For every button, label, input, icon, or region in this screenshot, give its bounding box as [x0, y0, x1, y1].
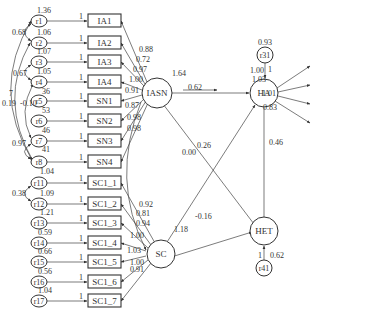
- svg-text:0.38: 0.38: [12, 189, 26, 198]
- svg-text:IA4: IA4: [98, 77, 112, 87]
- svg-text:1: 1: [79, 12, 83, 21]
- svg-text:46: 46: [42, 126, 50, 135]
- indicator-SC1_6: SC1_6: [88, 275, 121, 288]
- svg-text:0.19: 0.19: [2, 99, 16, 108]
- latent-het: HET: [250, 217, 278, 245]
- svg-text:1.00: 1.00: [250, 66, 264, 75]
- latent-sc: SC: [147, 240, 175, 268]
- svg-text:0.92: 0.92: [139, 200, 153, 209]
- svg-text:IA3: IA3: [98, 57, 112, 67]
- error-node-r11: r11: [31, 177, 47, 189]
- svg-text:SN2: SN2: [96, 116, 112, 126]
- svg-text:1: 1: [79, 92, 83, 101]
- left-error-nodes: r1 r2 r3 r4 r5 r6 r7 r8 r11 r12 r13 r14 …: [31, 15, 47, 307]
- svg-text:1.00: 1.00: [129, 75, 143, 84]
- svg-text:1: 1: [79, 34, 83, 43]
- svg-text:0.67: 0.67: [13, 69, 27, 78]
- svg-text:41: 41: [42, 145, 50, 154]
- svg-text:1: 1: [79, 53, 83, 62]
- svg-text:IASN: IASN: [146, 88, 168, 98]
- svg-text:IA2: IA2: [98, 38, 112, 48]
- svg-text:1: 1: [79, 153, 83, 162]
- svg-text:SC1_3: SC1_3: [92, 218, 117, 228]
- left-covariances: [11, 21, 33, 201]
- left-loading-labels: 0.88 0.72 0.97 1.00 0.91 0.87 0.98 0.98 …: [125, 45, 153, 274]
- indicator-SN1: SN1: [88, 94, 121, 107]
- svg-text:r3: r3: [36, 58, 43, 67]
- svg-text:SN1: SN1: [96, 96, 112, 106]
- svg-text:IA1: IA1: [98, 16, 112, 26]
- svg-text:r1: r1: [36, 17, 43, 26]
- svg-text:r8: r8: [36, 158, 43, 167]
- svg-text:0.26: 0.26: [197, 141, 211, 150]
- svg-text:1.04: 1.04: [38, 286, 52, 295]
- indicator-SC1_2: SC1_2: [88, 197, 121, 210]
- svg-text:HET: HET: [255, 226, 273, 236]
- svg-text:r13: r13: [34, 219, 45, 228]
- path-iasn-het: [163, 104, 257, 228]
- svg-text:1: 1: [79, 292, 83, 301]
- path-sc-het: [168, 232, 252, 258]
- svg-text:SC1_5: SC1_5: [92, 257, 117, 267]
- svg-text:SC1_6: SC1_6: [92, 277, 117, 287]
- svg-text:1: 1: [79, 132, 83, 141]
- indicator-SC1_5: SC1_5: [88, 255, 121, 268]
- indicator-SN2: SN2: [88, 114, 121, 127]
- left-covariance-labels: 0.68 0.67 -0.10 7 0.19 0.97 0.38: [2, 28, 37, 198]
- svg-text:0.88: 0.88: [139, 45, 153, 54]
- svg-text:1.01: 1.01: [262, 89, 276, 98]
- iasn-variance: 1.64: [172, 69, 186, 78]
- svg-text:1.36: 1.36: [37, 6, 51, 15]
- disturbance-r41: r41 0.62 1: [256, 246, 284, 276]
- svg-text:1.04: 1.04: [40, 167, 54, 176]
- svg-text:0.68: 0.68: [12, 28, 26, 37]
- indicator-SN4: SN4: [88, 155, 121, 168]
- svg-text:r4: r4: [36, 78, 43, 87]
- svg-text:r17: r17: [34, 297, 45, 306]
- svg-text:SC1_2: SC1_2: [92, 199, 117, 209]
- svg-text:0.87: 0.87: [125, 101, 139, 110]
- svg-text:1: 1: [268, 65, 272, 74]
- svg-text:0.66: 0.66: [38, 247, 52, 256]
- svg-text:1.03: 1.03: [127, 246, 141, 255]
- svg-text:1.06: 1.06: [37, 28, 51, 37]
- error-node-r1: r1: [31, 15, 47, 27]
- svg-text:1.09: 1.09: [40, 189, 54, 198]
- left-indicator-boxes: IA1 IA2 IA3 IA4 SN1 SN2 SN3 SN4 SC1_1 SC…: [88, 14, 121, 307]
- svg-text:1.07: 1.07: [37, 47, 51, 56]
- svg-text:1.21: 1.21: [40, 208, 54, 217]
- svg-text:SC1_1: SC1_1: [92, 178, 117, 188]
- svg-text:7: 7: [9, 89, 13, 98]
- indicator-IA3: IA3: [88, 55, 121, 68]
- svg-text:0.00: 0.00: [182, 148, 196, 157]
- svg-text:0.91: 0.91: [130, 265, 144, 274]
- indicator-SC1_3: SC1_3: [88, 216, 121, 229]
- svg-text:0.97: 0.97: [12, 139, 26, 148]
- svg-text:0.62: 0.62: [270, 251, 284, 260]
- svg-text:0.56: 0.56: [38, 267, 52, 276]
- sem-diagram: r1 r2 r3 r4 r5 r6 r7 r8 r11 r12 r13 r14 …: [0, 0, 391, 310]
- indicator-IA4: IA4: [88, 75, 121, 88]
- svg-text:0.83: 0.83: [263, 103, 277, 112]
- svg-text:r11: r11: [34, 179, 44, 188]
- svg-text:0.98: 0.98: [127, 124, 141, 133]
- svg-text:1.00: 1.00: [130, 231, 144, 240]
- svg-text:36: 36: [42, 87, 50, 96]
- svg-text:0.81: 0.81: [136, 209, 150, 218]
- svg-text:0.93: 0.93: [258, 38, 272, 47]
- indicator-SC1_7: SC1_7: [88, 294, 121, 307]
- svg-text:SC1_4: SC1_4: [92, 238, 117, 248]
- svg-text:SC1_7: SC1_7: [92, 296, 117, 306]
- svg-text:SC: SC: [155, 249, 166, 259]
- svg-text:1.18: 1.18: [174, 225, 188, 234]
- structural-paths: [127, 90, 264, 258]
- svg-text:1: 1: [79, 214, 83, 223]
- svg-text:1: 1: [258, 251, 262, 260]
- svg-text:1.03: 1.03: [252, 75, 266, 84]
- left-fixed-paths: 1 1 1 1 1 1 1 1 1 1 1 1 1 1 1: [79, 12, 83, 301]
- svg-text:1: 1: [79, 234, 83, 243]
- svg-text:0.91: 0.91: [125, 86, 139, 95]
- svg-text:-0.16: -0.16: [195, 212, 212, 221]
- svg-text:1: 1: [79, 174, 83, 183]
- svg-text:0.98: 0.98: [127, 113, 141, 122]
